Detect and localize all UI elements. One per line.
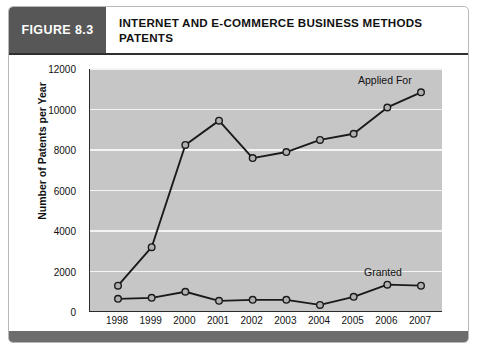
y-axis-tick-label: 12000 bbox=[16, 64, 76, 75]
figure-number-label: FIGURE 8.3 bbox=[21, 23, 93, 37]
figure-title: INTERNET AND E-COMMERCE BUSINESS METHODS… bbox=[119, 15, 449, 45]
figure-card: FIGURE 8.3 INTERNET AND E-COMMERCE BUSIN… bbox=[8, 6, 469, 343]
data-point bbox=[384, 104, 391, 111]
data-point bbox=[216, 117, 223, 124]
data-point bbox=[249, 155, 256, 162]
data-point bbox=[115, 296, 122, 303]
data-point bbox=[350, 294, 357, 301]
data-point bbox=[115, 282, 122, 289]
series-label-granted: Granted bbox=[364, 266, 402, 278]
data-point bbox=[418, 89, 425, 96]
y-axis-tick-label: 2000 bbox=[16, 266, 76, 277]
data-point bbox=[350, 131, 357, 138]
y-axis-tick-label: 10000 bbox=[16, 104, 76, 115]
data-point bbox=[249, 297, 256, 304]
data-point bbox=[182, 288, 189, 295]
data-point bbox=[283, 149, 290, 156]
x-axis-tick-label: 2007 bbox=[396, 315, 444, 326]
data-point bbox=[182, 142, 189, 149]
chart-region: Number of Patents per Year Applied For G… bbox=[9, 57, 468, 342]
series-line-granted bbox=[118, 285, 421, 305]
y-axis-tick-label: 6000 bbox=[16, 185, 76, 196]
series-line-applied-for bbox=[118, 92, 421, 285]
data-point bbox=[317, 302, 324, 309]
y-axis-tick-label: 0 bbox=[16, 307, 76, 318]
y-axis-tick-label: 8000 bbox=[16, 145, 76, 156]
data-point bbox=[418, 282, 425, 289]
plot-area: Applied For Granted bbox=[89, 69, 442, 312]
y-axis-tick-label: 4000 bbox=[16, 226, 76, 237]
series-label-applied-for: Applied For bbox=[358, 74, 412, 86]
data-point bbox=[216, 298, 223, 305]
data-point bbox=[148, 295, 155, 302]
data-point bbox=[283, 297, 290, 304]
figure-header: FIGURE 8.3 INTERNET AND E-COMMERCE BUSIN… bbox=[9, 7, 468, 55]
data-point bbox=[148, 244, 155, 251]
figure-number-badge: FIGURE 8.3 bbox=[9, 7, 106, 53]
footer-bar bbox=[9, 331, 468, 342]
data-point bbox=[317, 137, 324, 144]
data-point bbox=[384, 281, 391, 288]
